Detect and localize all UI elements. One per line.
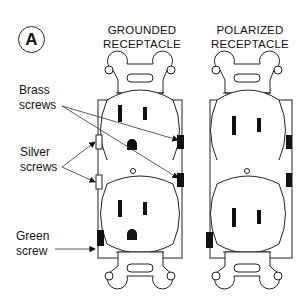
- polarized-receptacle: [210, 51, 292, 289]
- receptacle-diagram: [0, 0, 299, 303]
- grounded-receptacle: [98, 51, 182, 289]
